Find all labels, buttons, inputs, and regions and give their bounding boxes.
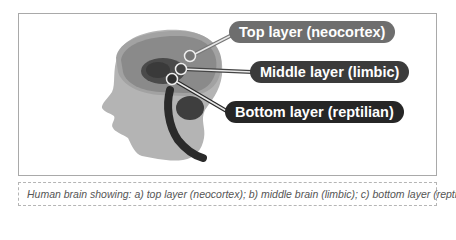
label-bottom-layer: Bottom layer (reptilian) (225, 101, 404, 123)
limbic-inner (146, 62, 170, 78)
label-top-layer: Top layer (neocortex) (229, 21, 395, 43)
figure-caption: Human brain showing: a) top layer (neoco… (18, 182, 437, 206)
label-middle-layer: Middle layer (limbic) (250, 61, 409, 83)
pointer-reptilian (167, 74, 178, 85)
cerebellum-shape (176, 96, 204, 120)
pointer-neocortex (185, 51, 196, 62)
pointer-limbic (176, 64, 187, 75)
